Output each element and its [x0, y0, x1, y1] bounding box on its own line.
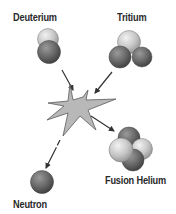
neutron-sphere: [109, 46, 131, 68]
proton-sphere: [109, 138, 133, 162]
neutron-sphere: [132, 47, 152, 67]
tritium-label: Tritium: [117, 12, 146, 23]
arrow-tritium-to-reaction: [95, 72, 112, 93]
arrow-deuterium-to-reaction: [62, 70, 73, 90]
neutron-sphere: [38, 41, 61, 64]
helium-nucleus: [109, 127, 153, 171]
deuterium-label: Deuterium: [13, 12, 57, 23]
fusion-burst-icon: [47, 84, 116, 136]
deuterium-nucleus: [38, 29, 61, 64]
fusion-helium-label: Fusion Helium: [105, 175, 166, 186]
tritium-nucleus: [109, 31, 152, 69]
arrow-reaction-to-neutron: [46, 140, 60, 168]
neutron-label: Neutron: [13, 199, 47, 210]
free-neutron: [31, 171, 54, 194]
fusion-diagram: Deuterium Tritium Fusion Helium Neutron: [0, 0, 176, 214]
